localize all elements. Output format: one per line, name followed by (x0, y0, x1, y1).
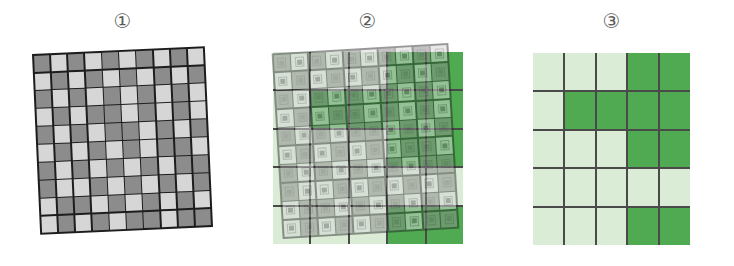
fine-cell (39, 180, 55, 197)
fine-cell-center-dot-icon (287, 189, 292, 194)
fine-cell-center-dot-icon (426, 162, 431, 167)
fine-cell (381, 85, 398, 103)
fine-cell (37, 127, 53, 144)
fine-cell-center-dot-icon (428, 199, 433, 204)
fine-cell (189, 66, 205, 83)
fine-cell-center-dot-icon (439, 88, 444, 93)
fine-cell-center-dot-icon (288, 207, 293, 212)
fine-cell (365, 122, 382, 140)
coarse-cell (565, 169, 595, 206)
fine-cell-center-dot-icon (314, 58, 319, 63)
fine-cell-center-dot-icon (407, 145, 412, 150)
fine-cell (382, 103, 399, 121)
fine-cell (364, 104, 381, 122)
fine-cell (292, 71, 309, 89)
fine-cell (102, 52, 118, 69)
fine-cell (55, 144, 71, 161)
fine-cell-center-dot-icon (412, 219, 417, 224)
coarse-cell (533, 131, 563, 168)
fine-cell (273, 54, 290, 72)
fine-cell-center-dot-icon (279, 60, 284, 65)
fine-cell-center-dot-icon (447, 216, 452, 221)
fine-grid-overlay-panel-2 (272, 43, 460, 239)
fine-cell (124, 158, 140, 175)
fine-cell (106, 141, 122, 158)
fine-cell-center-dot-icon (338, 168, 343, 173)
fine-cell (189, 84, 205, 101)
fine-cell (276, 91, 293, 109)
fine-cell (295, 127, 312, 145)
fine-cell (378, 48, 395, 66)
fine-cell-center-dot-icon (372, 147, 377, 152)
panel-3: ③ (489, 0, 734, 266)
fine-cell (73, 161, 89, 178)
fine-cell (138, 86, 154, 103)
fine-cell (137, 68, 153, 85)
fine-cell (158, 139, 174, 156)
fine-cell (155, 85, 171, 102)
fine-cell (119, 51, 135, 68)
fine-cell (176, 174, 192, 191)
fine-cell (441, 210, 458, 228)
fine-cell (123, 123, 139, 140)
fine-cell-center-dot-icon (341, 223, 346, 228)
fine-cell (108, 177, 124, 194)
fine-cell (294, 108, 311, 126)
coarse-grid-panel-3 (533, 53, 690, 245)
fine-cell (312, 107, 329, 125)
coarse-cell (597, 131, 627, 168)
fine-cell-center-dot-icon (394, 220, 399, 225)
panel-2: ② (245, 0, 490, 266)
fine-cell-center-dot-icon (420, 70, 425, 75)
coarse-cell (533, 169, 563, 206)
panel-1-stage (0, 0, 245, 266)
coarse-cell (628, 169, 658, 206)
fine-cell (173, 102, 189, 119)
fine-cell (397, 65, 414, 83)
fine-cell (35, 91, 51, 108)
fine-cell (348, 123, 365, 141)
fine-cell-center-dot-icon (442, 143, 447, 148)
fine-cell (371, 214, 388, 232)
fine-cell (423, 211, 440, 229)
fine-cell (177, 192, 193, 209)
fine-cell (160, 193, 176, 210)
fine-cell-center-dot-icon (304, 188, 309, 193)
fine-cell (421, 174, 438, 192)
coarse-cell (660, 92, 690, 129)
fine-cell (420, 156, 437, 174)
fine-cell (401, 139, 418, 157)
fine-cell-center-dot-icon (332, 57, 337, 62)
fine-cell (332, 161, 349, 179)
fine-cell (318, 218, 335, 236)
fine-cell (190, 102, 206, 119)
coarse-cell (628, 208, 658, 245)
fine-cell (362, 67, 379, 85)
fine-cell (191, 120, 207, 137)
fine-cell (74, 197, 90, 214)
fine-cell (120, 69, 136, 86)
fine-cell (298, 182, 315, 200)
fine-cell (333, 180, 350, 198)
fine-cell (172, 84, 188, 101)
fine-cell-center-dot-icon (333, 75, 338, 80)
fine-cell (89, 142, 105, 159)
fine-cell (400, 120, 417, 138)
fine-cell-center-dot-icon (386, 91, 391, 96)
fine-cell (366, 141, 383, 159)
fine-grid-panel-1 (32, 46, 213, 235)
fine-cell (34, 73, 50, 90)
fine-cell-center-dot-icon (285, 152, 290, 157)
fine-cell (69, 71, 85, 88)
fine-cell (41, 216, 57, 233)
fine-cell-center-dot-icon (300, 114, 305, 119)
fine-cell-center-dot-icon (384, 54, 389, 59)
fine-cell (369, 178, 386, 196)
fine-cell-center-dot-icon (336, 131, 341, 136)
fine-cell-center-dot-icon (390, 146, 395, 151)
fine-cell-center-dot-icon (298, 78, 303, 83)
fine-cell-center-dot-icon (305, 206, 310, 211)
fine-cell (297, 163, 314, 181)
fine-cell-center-dot-icon (424, 125, 429, 130)
fine-cell (88, 124, 104, 141)
